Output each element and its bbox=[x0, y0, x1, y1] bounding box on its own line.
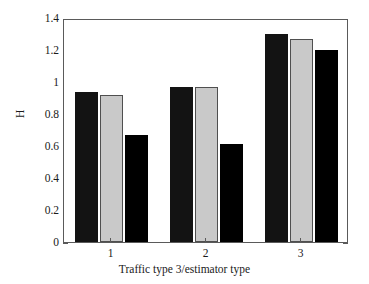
bar-3-series-1 bbox=[265, 34, 288, 242]
y-tick-label: 0.6 bbox=[15, 141, 59, 153]
bar-2-series-3 bbox=[220, 144, 243, 242]
x-tick-label: 3 bbox=[286, 247, 316, 259]
bar-1-series-1 bbox=[75, 92, 98, 242]
y-tick-label: 0.4 bbox=[15, 173, 59, 185]
bar-chart-figure: H 00.20.40.60.811.21.4 123 Traffic type … bbox=[0, 0, 369, 284]
bar-1-series-2 bbox=[100, 95, 123, 242]
plot-area bbox=[63, 19, 348, 243]
x-tick-mark bbox=[110, 238, 111, 243]
x-axis-title: Traffic type 3/estimator type bbox=[0, 263, 369, 275]
bar-3-series-3 bbox=[315, 50, 338, 242]
x-tick-mark bbox=[300, 238, 301, 243]
bar-2-series-2 bbox=[195, 87, 218, 242]
bars-layer bbox=[64, 20, 347, 242]
y-tick-label: 1.4 bbox=[15, 13, 59, 25]
y-tick-label: 1 bbox=[15, 77, 59, 89]
x-tick-label: 2 bbox=[191, 247, 221, 259]
bar-1-series-3 bbox=[125, 135, 148, 242]
bar-3-series-2 bbox=[290, 39, 313, 242]
x-tick-mark bbox=[205, 238, 206, 243]
y-tick-label: 0.8 bbox=[15, 109, 59, 121]
y-tick-label: 0.2 bbox=[15, 205, 59, 217]
y-tick-label: 1.2 bbox=[15, 45, 59, 57]
x-tick-label: 1 bbox=[96, 247, 126, 259]
y-tick-label: 0 bbox=[15, 237, 59, 249]
bar-2-series-1 bbox=[170, 87, 193, 242]
